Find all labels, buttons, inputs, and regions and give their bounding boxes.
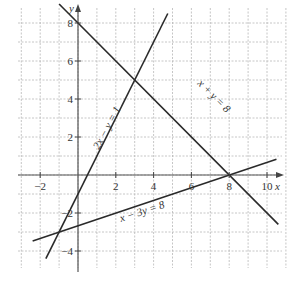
x-axis-arrow-icon: [276, 172, 284, 178]
label-x-plus-y: x + y = 8: [195, 76, 234, 115]
line-series: [59, 4, 278, 224]
y-axis-arrow-icon: [75, 4, 81, 12]
y-tick-label: 6: [68, 55, 74, 67]
label-x-minus-3y: x − 3y = 8: [117, 198, 166, 224]
x-tick-label: 10: [262, 180, 274, 192]
tick-labels: −22468108642−2−4: [34, 17, 273, 257]
x-tick-label: −2: [34, 180, 46, 192]
line-graph: −22468108642−2−4 x + y = 8 2x − y = 1 x …: [0, 0, 296, 284]
x-tick-label: 4: [151, 180, 157, 192]
x-tick-label: 6: [189, 180, 195, 192]
label-2x-minus-y: 2x − y = 1: [90, 104, 122, 151]
y-axis-label: y: [68, 2, 74, 14]
x-tick-label: 2: [113, 180, 119, 192]
y-tick-label: 4: [68, 93, 74, 105]
y-tick-label: 8: [68, 17, 74, 29]
x-axis-label: x: [274, 180, 280, 192]
x-tick-label: 8: [226, 180, 232, 192]
y-tick-label: −2: [61, 207, 73, 219]
y-tick-label: 2: [68, 131, 74, 143]
y-tick-label: −4: [61, 245, 73, 257]
